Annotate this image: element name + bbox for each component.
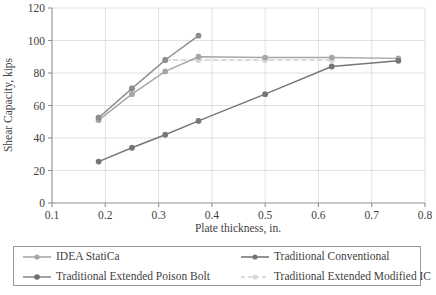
series-traditional-conventional [96,58,402,165]
x-tick-label: 0.1 [45,209,60,221]
legend-item-traditional-extended-poison-bolt[interactable]: Traditional Extended Poison Bolt [14,271,232,283]
x-tick-label: 0.6 [311,209,326,221]
data-point [262,91,268,97]
data-point [129,86,135,92]
data-point [395,58,401,64]
x-tick-label: 0.8 [418,209,433,221]
y-tick-label: 20 [34,165,46,177]
data-point [329,55,335,61]
chart-legend: IDEA StatiCa Traditional Conventional [13,246,421,286]
data-point [196,118,202,124]
data-point [162,57,168,63]
data-point [196,33,202,39]
x-tick-label: 0.3 [151,209,166,221]
data-point [129,145,135,151]
legend-label: Traditional Conventional [274,251,390,263]
legend-item-traditional-conventional[interactable]: Traditional Conventional [232,251,422,263]
data-point [162,68,168,74]
chart-figure: 020406080100120 0.10.20.30.40.50.60.70.8… [0,0,436,295]
data-point [96,159,102,165]
data-point [262,55,268,61]
y-tick-label: 60 [34,100,46,112]
y-tick-label: 40 [34,132,46,144]
data-point [162,132,168,138]
legend-swatch-icon [22,271,52,283]
y-tick-label: 100 [28,35,46,47]
data-point [96,115,102,121]
x-tick-label: 0.2 [98,209,113,221]
x-tick-label: 0.7 [365,209,380,221]
series-traditional-extended-poison-bolt [96,33,202,121]
legend-item-idea-statica[interactable]: IDEA StatiCa [14,251,232,263]
legend-label: IDEA StatiCa [56,251,120,263]
y-axis-title: Shear Capacity, kips [2,57,15,152]
legend-swatch-icon [240,271,270,283]
legend-item-traditional-extended-modified-ic[interactable]: Traditional Extended Modified IC [232,271,422,283]
legend-label: Traditional Extended Modified IC [274,271,431,283]
legend-swatch-icon [240,251,270,263]
legend-swatch-icon [22,251,52,263]
y-tick-label: 80 [34,67,46,79]
line-chart: 020406080100120 0.10.20.30.40.50.60.70.8… [0,0,436,238]
x-tick-label: 0.4 [205,209,220,221]
x-axis-title: Plate thickness, in. [195,222,281,235]
legend-label: Traditional Extended Poison Bolt [56,271,210,283]
data-series-group [96,33,402,165]
y-tick-label: 0 [39,197,45,209]
y-tick-label: 120 [28,2,46,14]
data-point [196,54,202,60]
axis-lines [48,8,425,207]
x-tick-label: 0.5 [258,209,273,221]
x-axis-tick-labels: 0.10.20.30.40.50.60.70.8 [45,209,433,221]
y-axis-tick-labels: 020406080100120 [28,2,46,209]
plot-area-container: 020406080100120 0.10.20.30.40.50.60.70.8… [0,0,436,238]
data-point [329,64,335,70]
data-point [129,91,135,97]
